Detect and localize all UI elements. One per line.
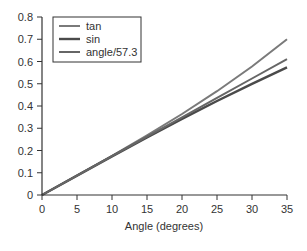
x-tick-label: 5 bbox=[74, 203, 80, 215]
legend-label: angle/57.3 bbox=[86, 46, 137, 58]
x-tick-label: 35 bbox=[281, 203, 293, 215]
x-tick-label: 10 bbox=[106, 203, 118, 215]
y-tick-label: 0.2 bbox=[18, 145, 33, 157]
y-tick-label: 0 bbox=[27, 189, 33, 201]
x-tick-label: 0 bbox=[39, 203, 45, 215]
x-axis-label: Angle (degrees) bbox=[125, 220, 203, 232]
x-tick-label: 30 bbox=[246, 203, 258, 215]
y-tick-label: 0.6 bbox=[18, 56, 33, 68]
x-ticks: 05101520253035 bbox=[39, 195, 293, 215]
series-line-sin bbox=[42, 67, 287, 195]
y-tick-label: 0.1 bbox=[18, 167, 33, 179]
series-line-angle-57-3 bbox=[42, 59, 287, 195]
x-tick-label: 20 bbox=[176, 203, 188, 215]
x-tick-label: 25 bbox=[211, 203, 223, 215]
y-tick-label: 0.4 bbox=[18, 100, 33, 112]
legend-label: sin bbox=[86, 33, 100, 45]
plot-lines bbox=[42, 39, 287, 195]
y-tick-label: 0.7 bbox=[18, 33, 33, 45]
series-line-tan bbox=[42, 39, 287, 195]
y-tick-label: 0.3 bbox=[18, 122, 33, 134]
x-tick-label: 15 bbox=[141, 203, 153, 215]
legend-label: tan bbox=[86, 20, 101, 32]
y-ticks: 00.10.20.30.40.50.60.70.8 bbox=[18, 11, 42, 201]
y-tick-label: 0.8 bbox=[18, 11, 33, 23]
chart: 00.10.20.30.40.50.60.70.8 05101520253035… bbox=[0, 0, 307, 251]
y-tick-label: 0.5 bbox=[18, 78, 33, 90]
legend: tansinangle/57.3 bbox=[53, 17, 141, 62]
